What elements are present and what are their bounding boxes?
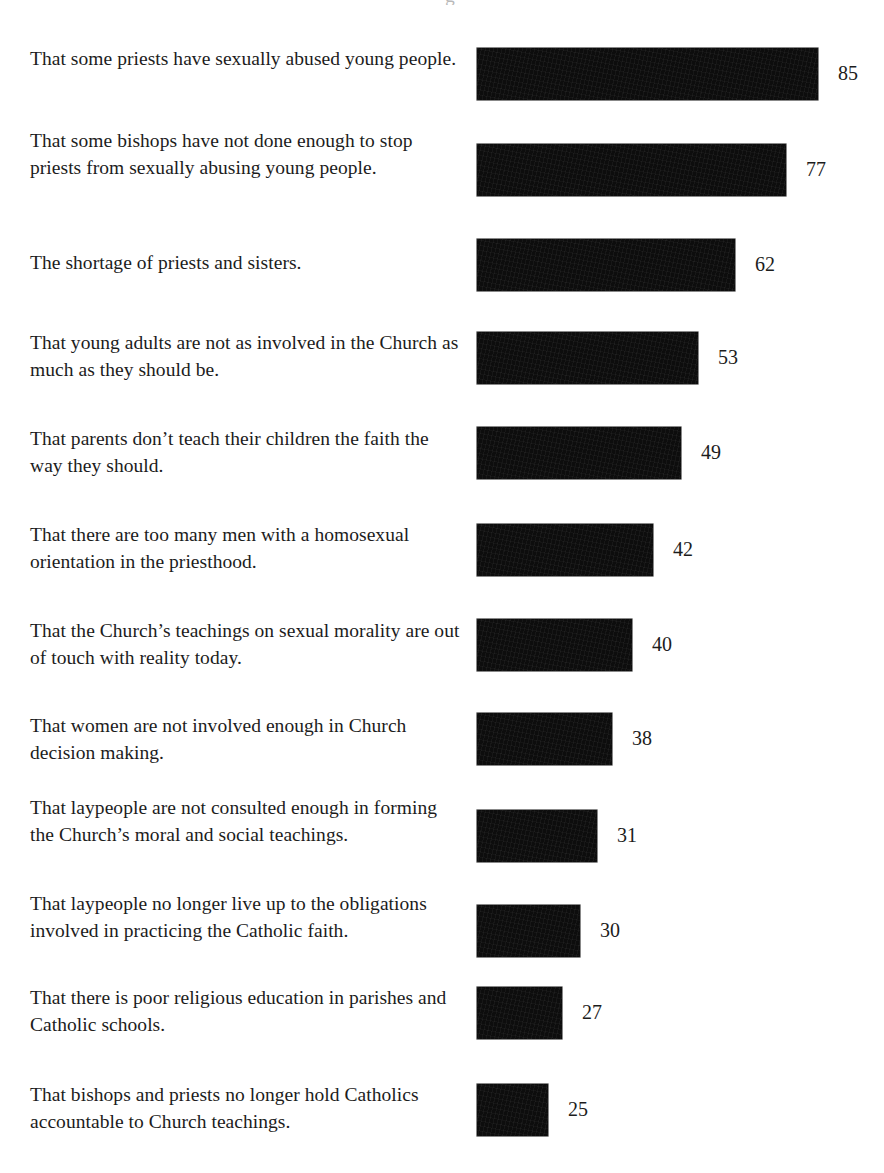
bar-value-label: 77 [806,156,826,183]
bar-value-label: 53 [718,344,738,371]
bar-value-label: 31 [617,822,637,849]
bar [477,713,612,765]
bar-value-label: 38 [632,725,652,752]
bar-track [477,144,786,196]
bar [477,48,818,100]
horizontal-bar-chart: That some priests have sexually abused y… [0,0,884,1173]
bar [477,524,653,576]
bar [477,427,681,479]
bar-value-label: 25 [568,1096,588,1123]
bar-category-label: That the Church’s teachings on sexual mo… [30,618,460,671]
bar-category-label: That there is poor religious education i… [30,985,460,1038]
bar-category-label: That parents don’t teach their children … [30,426,460,479]
bar-value-label: 49 [701,439,721,466]
bar-value-label: 42 [673,536,693,563]
bar-track [477,427,681,479]
bar-category-label: That bishops and priests no longer hold … [30,1082,460,1135]
bar-category-label: That young adults are not as involved in… [30,330,460,383]
bar [477,1084,548,1136]
bar-track [477,987,562,1039]
bar-category-label: That some bishops have not done enough t… [30,128,460,181]
bar-track [477,619,632,671]
bar [477,619,632,671]
bar-category-label: That there are too many men with a homos… [30,522,460,575]
bar [477,332,698,384]
bar-category-label: That laypeople are not consulted enough … [30,795,460,848]
bar-value-label: 62 [755,251,775,278]
bar-track [477,332,698,384]
bar [477,239,735,291]
bar [477,810,597,862]
bar-track [477,524,653,576]
bar-category-label: That women are not involved enough in Ch… [30,713,460,766]
bar [477,905,580,957]
bar-track [477,48,818,100]
bar [477,144,786,196]
bar [477,987,562,1039]
bar-track [477,713,612,765]
bar-category-label: That laypeople no longer live up to the … [30,891,460,944]
bar-category-label: That some priests have sexually abused y… [30,46,460,73]
bar-value-label: 30 [600,917,620,944]
bar-track [477,1084,548,1136]
bar-value-label: 27 [582,999,602,1026]
bar-value-label: 85 [838,60,858,87]
bar-track [477,810,597,862]
bar-category-label: The shortage of priests and sisters. [30,250,460,277]
bar-track [477,239,735,291]
bar-value-label: 40 [652,631,672,658]
bar-track [477,905,580,957]
